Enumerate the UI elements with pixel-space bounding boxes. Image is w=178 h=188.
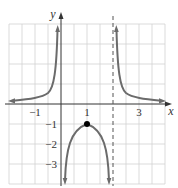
- x-tick-label: 1: [84, 106, 90, 118]
- arrow-left-top: [55, 25, 60, 32]
- y-tick-label: −1: [45, 118, 57, 130]
- y-tick-label: −3: [45, 158, 57, 170]
- x-tick-label: 3: [136, 106, 142, 118]
- graph: −1 1 3 −1 −2 −3 x y: [0, 0, 178, 188]
- y-axis: [59, 12, 64, 186]
- y-tick-label: −2: [45, 138, 57, 150]
- x-tick-label: −1: [29, 106, 41, 118]
- arrow-right-top: [114, 25, 119, 32]
- y-axis-label: y: [49, 7, 56, 21]
- local-max-point: [84, 121, 90, 127]
- x-axis-label: x: [167, 104, 174, 118]
